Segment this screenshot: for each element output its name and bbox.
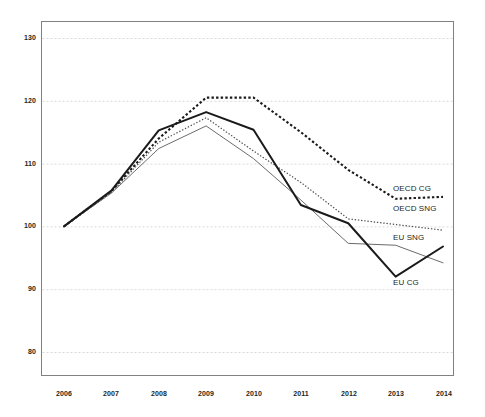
x-tick-2011: 2011 <box>281 390 321 397</box>
x-tick-2012: 2012 <box>329 390 369 397</box>
x-tick-2008: 2008 <box>139 390 179 397</box>
series-label-oecd-sng: OECD SNG <box>393 204 436 213</box>
x-tick-2006: 2006 <box>44 390 84 397</box>
series-label-oecd-cg: OECD CG <box>393 184 431 193</box>
y-tick-110: 110 <box>10 160 36 167</box>
y-tick-80: 80 <box>10 348 36 355</box>
x-tick-2007: 2007 <box>91 390 131 397</box>
x-tick-2010: 2010 <box>234 390 274 397</box>
series-label-eu-sng: EU SNG <box>393 233 424 242</box>
x-tick-2013: 2013 <box>376 390 416 397</box>
x-tick-2009: 2009 <box>186 390 226 397</box>
series-label-eu-cg: EU CG <box>393 278 419 287</box>
y-tick-90: 90 <box>10 285 36 292</box>
y-tick-120: 120 <box>10 97 36 104</box>
line-chart: 130 120 110 100 90 80 2006 2007 2008 200… <box>0 0 485 417</box>
x-tick-2014: 2014 <box>424 390 464 397</box>
y-tick-130: 130 <box>10 34 36 41</box>
y-tick-100: 100 <box>10 222 36 229</box>
